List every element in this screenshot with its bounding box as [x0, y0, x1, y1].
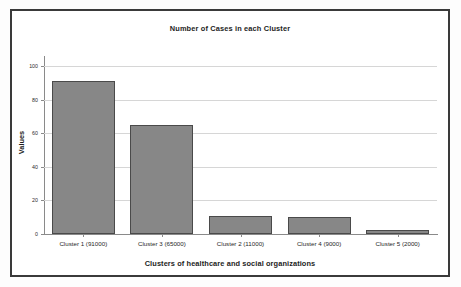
y-tick-mark — [41, 234, 44, 235]
x-tick-label: Cluster 4 (9000) — [297, 240, 341, 247]
x-tick-label: Cluster 5 (2000) — [376, 240, 420, 247]
figure-container: Number of Cases in each Cluster Values C… — [0, 0, 461, 287]
y-tick-label: 100 — [16, 63, 38, 69]
x-axis-title: Clusters of healthcare and social organi… — [30, 259, 430, 268]
bar[interactable] — [209, 216, 272, 234]
x-tick-mark — [319, 234, 320, 237]
x-tick-label: Cluster 2 (11000) — [217, 240, 264, 247]
bar[interactable] — [52, 81, 115, 234]
chart-title: Number of Cases in each Cluster — [30, 24, 430, 33]
y-tick-label: 0 — [16, 231, 38, 237]
plot-area — [44, 56, 437, 234]
y-tick-label: 40 — [16, 164, 38, 170]
y-tick-label: 20 — [16, 197, 38, 203]
x-tick-label: Cluster 3 (65000) — [138, 240, 186, 247]
y-tick-label: 60 — [16, 130, 38, 136]
x-tick-mark — [241, 234, 242, 237]
y-tick-label: 80 — [16, 97, 38, 103]
x-tick-mark — [83, 234, 84, 237]
x-tick-label: Cluster 1 (91000) — [59, 240, 107, 247]
x-tick-mark — [162, 234, 163, 237]
bar[interactable] — [288, 217, 351, 234]
x-tick-mark — [398, 234, 399, 237]
bar[interactable] — [130, 125, 193, 234]
